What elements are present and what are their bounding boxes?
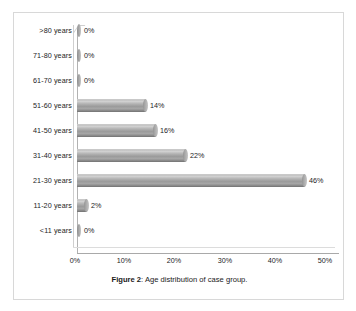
bar-value-label: 0% xyxy=(84,76,94,85)
bar-value-label: 0% xyxy=(84,26,94,35)
bar-end-cap xyxy=(302,174,307,187)
bar-row[interactable]: 2% xyxy=(77,199,87,212)
bar-value-label: 22% xyxy=(190,151,204,160)
bar-end-cap xyxy=(143,99,148,112)
bar-segment xyxy=(77,24,81,37)
x-axis-tick-3: 30% xyxy=(211,256,239,265)
bar-segment xyxy=(77,49,81,62)
bar-row[interactable]: 0% xyxy=(77,24,82,37)
x-axis-tick-5: 50% xyxy=(311,256,339,265)
bar-end-cap xyxy=(84,199,89,212)
bar-value-label: 14% xyxy=(150,101,164,110)
bar-row[interactable]: 0% xyxy=(77,74,82,87)
bar-value-label: 16% xyxy=(160,126,174,135)
figure-caption-text: Age distribution of case group. xyxy=(145,275,248,284)
bars-layer: 0% 0% 0% 14% 16% xyxy=(14,13,345,266)
bar-segment xyxy=(77,99,146,112)
bar-end-cap xyxy=(183,149,188,162)
bar-row[interactable]: 46% xyxy=(77,174,305,187)
x-axis-tick-labels: 0% 10% 20% 30% 40% 50% xyxy=(14,256,345,268)
x-axis-tick-4: 40% xyxy=(261,256,289,265)
x-axis-tick-0: 0% xyxy=(61,256,89,265)
bar-segment xyxy=(77,149,186,162)
figure-frame: >80 years 71-80 years 61-70 years 51-60 … xyxy=(13,12,344,300)
bar-row[interactable]: 14% xyxy=(77,99,146,112)
figure-caption: Figure 2: Age distribution of case group… xyxy=(14,275,345,285)
bar-row[interactable]: 16% xyxy=(77,124,156,137)
bar-row[interactable]: 22% xyxy=(77,149,186,162)
bar-segment xyxy=(77,174,305,187)
bar-row[interactable]: 0% xyxy=(77,49,82,62)
bar-segment xyxy=(77,74,81,87)
x-axis-tick-1: 10% xyxy=(110,256,138,265)
bar-segment xyxy=(77,124,156,137)
bar-value-label: 0% xyxy=(84,51,94,60)
bar-value-label: 0% xyxy=(84,226,94,235)
bar-segment xyxy=(77,224,81,237)
chart-plot-area: >80 years 71-80 years 61-70 years 51-60 … xyxy=(14,13,345,266)
bar-value-label: 2% xyxy=(91,201,101,210)
bar-row[interactable]: 0% xyxy=(77,224,82,237)
bar-end-cap xyxy=(153,124,158,137)
bar-value-label: 46% xyxy=(309,176,323,185)
x-axis-tick-2: 20% xyxy=(160,256,188,265)
figure-caption-label: Figure 2 xyxy=(112,275,142,284)
